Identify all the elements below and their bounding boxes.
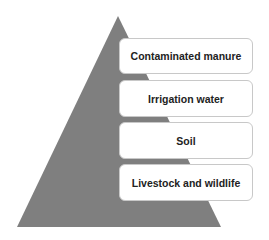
level-label: Soil [176, 135, 195, 147]
pyramid-triangle [0, 0, 269, 240]
level-label: Livestock and wildlife [132, 177, 241, 189]
level-box-contaminated-manure: Contaminated manure [119, 38, 253, 74]
level-box-irrigation-water: Irrigation water [119, 80, 253, 117]
level-label: Irrigation water [148, 93, 224, 105]
level-box-soil: Soil [119, 122, 253, 159]
level-box-livestock-and-wildlife: Livestock and wildlife [119, 164, 253, 201]
level-label: Contaminated manure [131, 50, 242, 62]
